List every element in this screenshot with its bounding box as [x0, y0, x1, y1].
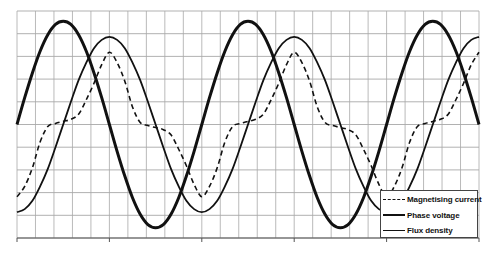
thick-line-swatch-icon — [383, 214, 405, 216]
x-axis — [17, 238, 479, 242]
legend-label: Magnetising current — [407, 195, 482, 204]
legend-label: Phase voltage — [407, 211, 460, 220]
legend-item-phase-voltage: Phase voltage — [381, 208, 460, 222]
legend-item-magnetising-current: Magnetising current — [381, 192, 482, 206]
legend-item-flux-density: Flux density — [381, 223, 452, 237]
chart-legend: Magnetising current Phase voltage Flux d… — [380, 190, 478, 238]
solid-line-swatch-icon — [383, 230, 405, 231]
legend-label: Flux density — [407, 226, 452, 235]
dashed-line-swatch-icon — [383, 199, 405, 200]
